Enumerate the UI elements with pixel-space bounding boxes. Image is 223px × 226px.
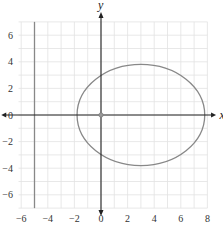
y-tick-label: 0 (8, 110, 13, 121)
y-tick-label: 6 (8, 30, 13, 41)
y-axis-label: y (97, 0, 104, 12)
y-tick-label: 2 (8, 83, 13, 94)
x-tick-label: −2 (69, 213, 80, 224)
y-tick-label: 4 (8, 56, 13, 67)
x-tick-label: 8 (205, 213, 210, 224)
x-axis-arrow-left-icon (1, 113, 6, 118)
y-tick-label: −6 (2, 189, 13, 200)
x-tick-label: 6 (178, 213, 183, 224)
x-tick-label: −4 (42, 213, 53, 224)
x-axis-label: x (218, 108, 223, 122)
x-tick-label: 0 (99, 213, 104, 224)
x-tick-label: −6 (16, 213, 27, 224)
x-axis-arrow-right-icon (211, 113, 216, 118)
x-tick-label: 2 (125, 213, 130, 224)
y-tick-label: −4 (2, 163, 13, 174)
coordinate-plane: xy −6−4−2024686420−2−4−6 (0, 0, 223, 226)
y-tick-label: −2 (2, 136, 13, 147)
y-axis-arrow-up-icon (99, 12, 104, 18)
origin-point (99, 113, 103, 117)
x-tick-label: 4 (152, 213, 157, 224)
